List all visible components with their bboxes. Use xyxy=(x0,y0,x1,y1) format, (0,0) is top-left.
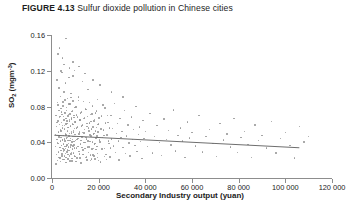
y-axis-title-base: SO xyxy=(7,97,16,108)
plot-area: 0.000.040.080.120.16 020 00040 00060 000… xyxy=(52,35,332,178)
y-tick-label: 0.16 xyxy=(31,31,45,40)
y-axis-title-unit: (mgm xyxy=(7,70,16,91)
y-axis-title: SO2 (mgm-3) xyxy=(7,63,17,108)
figure-number: FIGURE 4.13 xyxy=(22,3,75,13)
x-tick-label: 20 000 xyxy=(87,183,110,192)
x-tick-label: 40 000 xyxy=(134,183,157,192)
x-tick-label: 60 000 xyxy=(181,183,204,192)
y-axis-title-sup: -3 xyxy=(7,65,13,70)
regression-line-layer xyxy=(52,35,332,178)
x-tick-label: 0 xyxy=(50,183,54,192)
y-tick-label: 0.08 xyxy=(31,102,45,111)
x-axis-title: Secondary Industry output (yuan) xyxy=(0,191,360,200)
y-axis-title-unit-close: ) xyxy=(7,63,16,66)
x-tick-label: 120 000 xyxy=(319,183,346,192)
y-tick-label: 0.12 xyxy=(31,66,45,75)
x-tick-label: 80 000 xyxy=(227,183,250,192)
figure-root: FIGURE 4.13 Sulfur dioxide pollution in … xyxy=(0,0,360,208)
figure-caption: Sulfur dioxide pollution in Chinese citi… xyxy=(77,3,233,13)
y-axis-title-sub: 2 xyxy=(11,94,17,97)
figure-title: FIGURE 4.13 Sulfur dioxide pollution in … xyxy=(22,3,233,13)
x-tick-label: 100 000 xyxy=(272,183,299,192)
y-tick-label: 0.04 xyxy=(31,138,45,147)
regression-line xyxy=(52,35,332,178)
y-tick-label: 0.00 xyxy=(31,174,45,183)
